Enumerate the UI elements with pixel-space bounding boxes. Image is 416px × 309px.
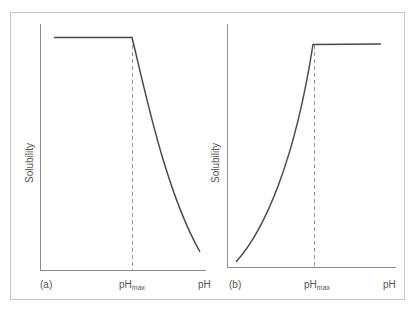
figure: Solubility (a) pHmax pH Solubility (b) p… [0, 0, 416, 309]
panel-a: Solubility (a) pHmax pH [24, 24, 211, 291]
x-axis-label: pH [198, 279, 211, 290]
panel-label: (b) [229, 279, 241, 290]
solubility-curve [236, 44, 381, 262]
panel-label: (a) [40, 279, 52, 290]
figure-frame [11, 13, 405, 300]
pHmax-label: pHmax [304, 279, 331, 291]
solubility-curve [54, 38, 200, 253]
pHmax-label: pHmax [119, 279, 146, 291]
y-axis-label: Solubility [210, 143, 221, 183]
x-axis-label: pH [383, 279, 396, 290]
panel-b: Solubility (b) pHmax pH [210, 24, 396, 291]
y-axis-label: Solubility [24, 143, 35, 183]
